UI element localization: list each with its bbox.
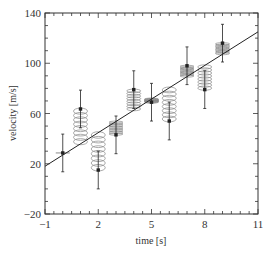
- data-point: [185, 47, 188, 85]
- point-marker: [150, 100, 153, 103]
- point-marker: [97, 168, 100, 171]
- x-tick-label: 11: [253, 218, 264, 230]
- x-tick-label: 8: [202, 218, 208, 230]
- data-point: [79, 90, 82, 128]
- chart: −125811−202060100140 time [s] velocity […: [0, 0, 274, 256]
- tick-labels: −125811−202060100140: [24, 7, 264, 230]
- point-marker: [114, 133, 117, 136]
- x-tick-label: 5: [149, 218, 155, 230]
- data-point: [203, 71, 206, 109]
- point-marker: [61, 151, 64, 154]
- x-axis-label: time [s]: [136, 235, 167, 246]
- point-marker: [79, 107, 82, 110]
- y-tick-label: 140: [25, 7, 42, 19]
- y-tick-label: 20: [30, 158, 42, 170]
- y-tick-label: 60: [30, 108, 42, 120]
- point-marker: [221, 41, 224, 44]
- data-point: [61, 134, 64, 172]
- point-marker: [132, 88, 135, 91]
- y-axis-label: velocity [m/s]: [7, 85, 18, 141]
- data-points: [61, 24, 224, 189]
- x-tick-label: 2: [96, 218, 102, 230]
- point-marker: [168, 119, 171, 122]
- point-marker: [203, 88, 206, 91]
- y-tick-label: −20: [24, 208, 42, 220]
- y-tick-label: 100: [25, 57, 42, 69]
- data-point: [221, 24, 224, 62]
- data-point: [150, 83, 153, 121]
- point-marker: [185, 64, 188, 67]
- residual-springs: [56, 43, 230, 171]
